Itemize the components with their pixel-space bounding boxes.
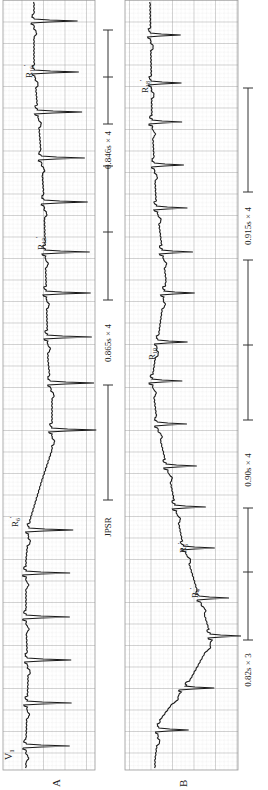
interval-annotations-b: 0.915s × 40.90s × 40.82s × 3 xyxy=(243,88,253,687)
beat-label: R6' xyxy=(8,517,21,527)
interval-annotations-a: 0.846s × 40.865s × 4JPSR xyxy=(103,30,113,537)
ecg-figure: R16'R12'R6' V1 A R18'R10R5'R4' B 0.846s … xyxy=(0,0,268,790)
panel-label-a: A xyxy=(50,779,62,787)
beat-label: R4' xyxy=(188,588,201,598)
interval-text: 0.90s × 4 xyxy=(243,453,253,487)
interval-text: 0.865s × 4 xyxy=(103,324,113,362)
beat-label: R5' xyxy=(176,543,189,553)
interval-text: 0.915s × 4 xyxy=(243,207,253,245)
panel-b: R18'R10R5'R4' B xyxy=(125,0,241,787)
interval-text: 0.846s × 4 xyxy=(103,131,113,169)
panel-a: R16'R12'R6' V1 A xyxy=(3,0,96,787)
interval-text: JPSR xyxy=(103,517,113,537)
ecg-grid-strip-b xyxy=(125,0,238,770)
interval-text: 0.82s × 3 xyxy=(243,653,253,687)
panel-label-b: B xyxy=(177,780,189,787)
